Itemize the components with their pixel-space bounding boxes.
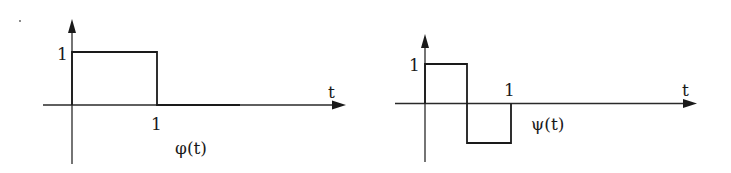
phi-y-axis-arrow-icon	[68, 19, 76, 33]
phi-function-label: φ(t)	[175, 138, 207, 158]
phi-x-tick-label: 1	[151, 114, 162, 134]
psi-y-tick-label: 1	[409, 55, 420, 75]
phi-panel: 1 1 t φ(t)	[43, 19, 346, 164]
psi-x-tick-label: 1	[504, 80, 515, 100]
haar-diagram: 1 1 t φ(t) 1 1 t ψ(t)	[0, 0, 731, 173]
stray-dot	[19, 20, 21, 22]
phi-function-curve	[72, 52, 240, 105]
psi-y-axis-arrow-icon	[421, 34, 429, 48]
psi-x-axis-arrow-icon	[683, 99, 697, 108]
psi-function-label: ψ(t)	[531, 114, 564, 134]
phi-y-tick-label: 1	[57, 44, 68, 64]
psi-panel: 1 1 t ψ(t)	[395, 34, 697, 162]
phi-x-axis-label: t	[328, 82, 335, 102]
psi-x-axis-label: t	[682, 80, 689, 100]
